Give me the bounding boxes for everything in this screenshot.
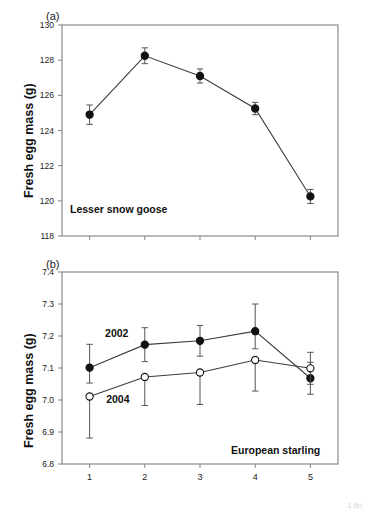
panel-b-european-starling: (b) Fresh egg mass (g) European starling… bbox=[0, 252, 366, 500]
y-tick-label: 7.4 bbox=[22, 267, 54, 277]
x-tick-label: 4 bbox=[240, 472, 270, 482]
y-tick-label: 118 bbox=[22, 231, 54, 241]
panel-a-plot-area bbox=[0, 0, 366, 252]
figure-two-panel-egg-mass: (a) Fresh egg mass (g) Lesser snow goose… bbox=[0, 0, 366, 513]
panel-a-species-label: Lesser snow goose bbox=[70, 203, 167, 215]
y-tick-label: 6.9 bbox=[22, 427, 54, 437]
y-tick-label: 7.2 bbox=[22, 331, 54, 341]
panel-b-plot-area bbox=[0, 252, 366, 500]
y-tick-label: 6.8 bbox=[22, 459, 54, 469]
y-tick-label: 7.1 bbox=[22, 363, 54, 373]
panel-b-species-label: European starling bbox=[231, 444, 320, 456]
series-label-2004: 2004 bbox=[106, 393, 129, 405]
y-tick-label: 7.3 bbox=[22, 299, 54, 309]
y-tick-label: 126 bbox=[22, 90, 54, 100]
y-tick-label: 124 bbox=[22, 126, 54, 136]
x-tick-label: 1 bbox=[75, 472, 105, 482]
y-tick-label: 130 bbox=[22, 20, 54, 30]
bottom-caption-fragment: 1 (b) bbox=[0, 502, 366, 509]
y-tick-label: 128 bbox=[22, 55, 54, 65]
panel-a-lesser-snow-goose: (a) Fresh egg mass (g) Lesser snow goose… bbox=[0, 0, 366, 252]
x-tick-label: 2 bbox=[130, 472, 160, 482]
x-tick-label: 3 bbox=[185, 472, 215, 482]
series-label-2002: 2002 bbox=[105, 327, 128, 339]
y-tick-label: 120 bbox=[22, 196, 54, 206]
x-tick-label: 5 bbox=[295, 472, 325, 482]
y-tick-label: 7.0 bbox=[22, 395, 54, 405]
y-tick-label: 122 bbox=[22, 161, 54, 171]
